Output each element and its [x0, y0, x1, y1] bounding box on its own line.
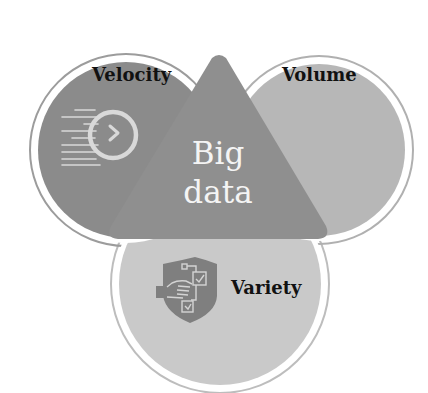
variety-label: Variety	[231, 277, 302, 298]
big-data-title-line2: data	[168, 173, 268, 212]
big-data-title: Big data	[168, 134, 268, 212]
big-data-title-line1: Big	[168, 134, 268, 173]
volume-label: Volume	[282, 64, 357, 85]
velocity-label: Velocity	[92, 64, 171, 85]
